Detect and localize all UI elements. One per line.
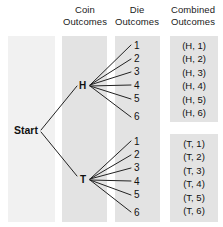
branch-tails-to-die-5	[90, 180, 131, 195]
combined-outcome-item: (T, 6)	[170, 204, 218, 217]
die-outcomes-heads: 1 2 3 4 5 6	[134, 39, 156, 123]
die-outcome-item: 3	[134, 161, 156, 174]
branch-tails-to-die-6	[90, 180, 131, 212]
combined-outcome-item: (T, 4)	[170, 177, 218, 190]
die-outcome-item: 1	[134, 39, 156, 52]
branch-tails-to-die-2	[90, 155, 131, 179]
combined-outcome-item: (H, 6)	[170, 106, 218, 119]
die-outcome-item: 4	[134, 175, 156, 188]
node-start: Start	[14, 125, 38, 136]
node-coin-tails: T	[80, 174, 86, 185]
die-outcome-item: 2	[134, 52, 156, 65]
combined-outcome-item: (T, 1)	[170, 137, 218, 150]
combined-outcome-item: (T, 2)	[170, 150, 218, 163]
combined-outcome-item: (H, 3)	[170, 66, 218, 79]
combined-outcome-item: (H, 1)	[170, 39, 218, 52]
branch-tails-to-die-4	[90, 180, 131, 181]
die-outcome-item: 5	[134, 188, 156, 201]
combined-outcome-item: (T, 5)	[170, 191, 218, 204]
combined-outcome-item: (T, 3)	[170, 164, 218, 177]
branch-heads-to-die-5	[90, 86, 131, 99]
branch-heads-to-die-6	[90, 86, 131, 117]
die-outcome-item: 2	[134, 148, 156, 161]
die-outcome-item: 4	[134, 79, 156, 92]
die-outcome-item: 3	[134, 65, 156, 78]
branch-heads-to-die-4	[90, 85, 131, 86]
branch-start-to-tails	[41, 132, 77, 176]
combined-outcome-item: (H, 2)	[170, 52, 218, 65]
die-outcome-item: 5	[134, 92, 156, 105]
combined-outcomes-tails: (T, 1) (T, 2) (T, 3) (T, 4) (T, 5) (T, 6…	[170, 137, 218, 217]
combined-outcome-item: (H, 5)	[170, 93, 218, 106]
branch-start-to-heads	[41, 86, 77, 130]
branch-heads-to-die-2	[90, 59, 131, 85]
combined-outcome-item: (H, 4)	[170, 79, 218, 92]
die-outcome-item: 6	[134, 206, 156, 219]
die-outcome-item: 1	[134, 135, 156, 148]
combined-outcomes-heads: (H, 1) (H, 2) (H, 3) (H, 4) (H, 5) (H, 6…	[170, 39, 218, 119]
die-outcome-item: 6	[134, 110, 156, 123]
node-coin-heads: H	[79, 80, 86, 91]
die-outcomes-tails: 1 2 3 4 5 6	[134, 135, 156, 219]
tree-diagram-figure: Coin Outcomes Die Outcomes Combined Outc…	[0, 0, 223, 227]
